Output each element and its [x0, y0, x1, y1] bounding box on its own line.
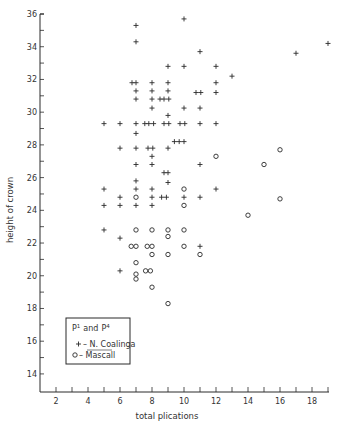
circle-marker-icon — [129, 244, 133, 248]
x-axis-title: total plications — [136, 411, 199, 421]
plus-marker-icon — [150, 146, 155, 151]
plus-marker-icon — [164, 195, 169, 200]
circle-marker-icon — [143, 269, 147, 273]
plus-marker-icon — [150, 203, 155, 208]
plus-marker-icon — [194, 90, 199, 95]
plus-marker-icon — [182, 64, 187, 69]
plus-marker-icon — [118, 146, 123, 151]
y-tick-label: 30 — [27, 108, 37, 117]
plus-marker-icon — [134, 162, 139, 167]
circle-marker-icon — [182, 228, 186, 232]
circle-marker-icon — [214, 154, 218, 158]
series-n-coalinga — [102, 16, 331, 273]
plus-marker-icon — [166, 121, 171, 126]
legend-label-mascall: – Mascall — [79, 351, 115, 360]
plus-marker-icon — [134, 23, 139, 28]
plus-marker-icon — [150, 97, 155, 102]
x-tick-label: 2 — [53, 397, 58, 406]
plus-marker-icon — [182, 106, 187, 111]
plus-marker-icon — [150, 187, 155, 192]
circle-marker-icon — [246, 213, 250, 217]
circle-marker-icon — [134, 277, 138, 281]
circle-marker-icon — [198, 252, 202, 256]
circle-marker-icon — [150, 244, 154, 248]
circle-marker-icon — [134, 272, 138, 276]
legend-entry-n-coalinga: – N. Coalinga — [76, 340, 136, 349]
y-axis-title: height of crown — [5, 177, 15, 243]
circle-marker-icon — [278, 148, 282, 152]
x-tick-label: 12 — [211, 397, 221, 406]
plus-marker-icon — [294, 51, 299, 56]
plus-marker-icon — [134, 146, 139, 151]
circle-marker-icon — [166, 234, 170, 238]
plus-marker-icon — [134, 187, 139, 192]
plus-marker-icon — [150, 106, 155, 111]
y-tick-label: 28 — [27, 141, 37, 150]
plus-marker-icon — [198, 162, 203, 167]
circle-marker-icon — [182, 244, 186, 248]
plus-marker-icon — [214, 80, 219, 85]
y-tick-label: 36 — [27, 10, 37, 19]
plus-marker-icon — [134, 203, 139, 208]
plus-marker-icon — [134, 80, 139, 85]
plus-marker-icon — [162, 97, 167, 102]
legend-label-n-coalinga: – N. Coalinga — [83, 340, 136, 349]
circle-marker-icon — [182, 187, 186, 191]
circle-marker-icon — [148, 269, 152, 273]
circle-marker-icon — [145, 244, 149, 248]
circle-marker-icon — [278, 197, 282, 201]
circle-marker-icon — [182, 203, 186, 207]
plus-marker-icon — [102, 227, 107, 232]
circle-marker-icon — [150, 285, 154, 289]
plus-marker-icon — [182, 121, 187, 126]
plus-marker-icon — [134, 88, 139, 93]
circle-marker-icon — [134, 260, 138, 264]
x-tick-label: 4 — [85, 397, 90, 406]
plus-marker-icon — [166, 170, 171, 175]
plus-marker-icon — [182, 16, 187, 21]
plus-marker-icon — [326, 41, 331, 46]
plus-marker-icon — [102, 203, 107, 208]
plus-marker-icon — [134, 131, 139, 136]
plus-marker-icon — [182, 195, 187, 200]
plus-marker-icon — [198, 195, 203, 200]
plus-marker-icon — [198, 90, 203, 95]
plus-marker-icon — [177, 139, 182, 144]
plus-marker-icon — [150, 154, 155, 159]
plus-marker-icon — [166, 113, 171, 118]
plus-marker-icon — [134, 178, 139, 183]
plus-marker-icon — [166, 146, 171, 151]
plus-marker-icon — [198, 244, 203, 249]
circle-marker-icon — [134, 195, 138, 199]
x-tick-label: 6 — [117, 397, 122, 406]
plus-marker-icon — [214, 64, 219, 69]
x-tick-label: 8 — [149, 397, 154, 406]
plus-marker-icon — [118, 236, 123, 241]
legend-entry-mascall: – Mascall — [73, 350, 115, 360]
circle-marker-icon — [150, 228, 154, 232]
plus-marker-icon — [230, 74, 235, 79]
plus-marker-icon — [166, 180, 171, 185]
y-tick-label: 32 — [27, 75, 37, 84]
plus-marker-icon — [159, 195, 164, 200]
plus-marker-icon — [102, 187, 107, 192]
data-points — [102, 16, 331, 305]
plus-marker-icon — [151, 121, 156, 126]
y-tick-label: 34 — [27, 43, 37, 52]
plus-marker-icon — [118, 195, 123, 200]
plus-marker-icon — [182, 139, 187, 144]
plus-marker-icon — [166, 80, 171, 85]
scatter-chart: 14161820222426283032343624681012141618 P… — [0, 0, 338, 428]
y-tick-label: 20 — [27, 272, 37, 281]
circle-marker-icon — [134, 244, 138, 248]
plus-marker-icon — [198, 49, 203, 54]
plus-marker-icon — [162, 121, 167, 126]
plus-marker-icon — [146, 121, 151, 126]
circle-marker-icon — [262, 162, 266, 166]
y-tick-label: 22 — [27, 239, 37, 248]
plus-marker-icon — [166, 64, 171, 69]
x-tick-label: 18 — [307, 397, 317, 406]
plus-marker-icon — [150, 195, 155, 200]
plus-marker-icon — [134, 97, 139, 102]
plus-marker-icon — [118, 121, 123, 126]
